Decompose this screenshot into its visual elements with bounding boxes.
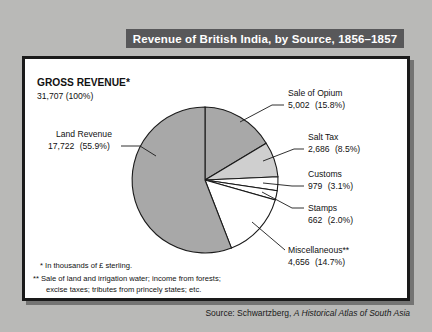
- label-miscellaneous-value: 4,656 (14.7%): [288, 257, 345, 267]
- label-salt-tax-value: 2,686 (8.5%): [308, 144, 360, 154]
- gross-revenue-value: 31,707 (100%): [37, 91, 94, 101]
- label-sale-of-opium-name: Sale of Opium: [288, 88, 342, 98]
- label-customs-value: 979 (3.1%): [308, 181, 353, 191]
- label-land-revenue-value: 17,722 (55.9%): [48, 141, 110, 151]
- label-customs-name: Customs: [308, 169, 342, 179]
- leader-sale-of-opium: [240, 105, 284, 122]
- label-salt-tax-name: Salt Tax: [308, 132, 339, 142]
- label-land-revenue-name: Land Revenue: [56, 129, 112, 139]
- source-work-title: A Historical Atlas of South Asia: [294, 308, 410, 318]
- source-line: Source: Schwartzberg, A Historical Atlas…: [22, 308, 410, 318]
- pie-chart: GROSS REVENUE* 31,707 (100%) Land Revenu…: [0, 0, 432, 332]
- label-miscellaneous-name: Miscellaneous**: [288, 245, 350, 255]
- label-stamps-value: 662 (2.0%): [308, 215, 353, 225]
- footnote-one: * In thousands of £ sterling.: [40, 261, 132, 270]
- label-sale-of-opium-value: 5,002 (15.8%): [288, 100, 345, 110]
- pie-slices: [132, 107, 278, 253]
- footnote-two-line2: excise taxes; tributes from princely sta…: [46, 285, 201, 294]
- footnote-two-line1: ** Sale of land and irrigation water; in…: [33, 274, 221, 283]
- label-stamps-name: Stamps: [308, 203, 337, 213]
- leader-miscellaneous: [252, 222, 285, 250]
- gross-revenue-label: GROSS REVENUE*: [37, 77, 130, 88]
- source-prefix: Source: Schwartzberg,: [205, 308, 293, 318]
